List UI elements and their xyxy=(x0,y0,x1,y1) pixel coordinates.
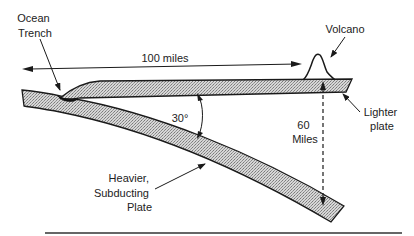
depth-label-line2: Miles xyxy=(292,133,318,145)
lighter-plate-pointer xyxy=(343,94,360,112)
heavier-plate-label: Heavier, Subducting Plate xyxy=(94,172,152,213)
depth-label: 60 Miles xyxy=(292,119,318,145)
ocean-trench-label: Ocean Trench xyxy=(17,12,52,39)
angle-label: 30° xyxy=(172,112,189,124)
lighter-plate xyxy=(60,79,352,99)
lighter-plate-label: Lighter plate xyxy=(364,106,401,132)
volcano-label: Volcano xyxy=(325,23,364,35)
distance-label: 100 miles xyxy=(141,52,189,64)
depth-label-line1: 60 xyxy=(297,119,309,131)
distance-arrow-left-head xyxy=(22,66,33,72)
heavier-plate-label-line3: Plate xyxy=(127,201,152,213)
angle-arc xyxy=(198,95,203,137)
lighter-plate-label-line2: plate xyxy=(370,120,394,132)
subduction-diagram: Ocean Trench 100 miles Volcano 30° 60 Mi… xyxy=(0,0,414,236)
volcano-pointer xyxy=(331,37,345,57)
ocean-trench-label-line2: Trench xyxy=(18,27,52,39)
trench-pointer xyxy=(40,39,60,90)
heavier-plate-label-line1: Heavier, xyxy=(109,172,149,184)
subducting-plate xyxy=(22,90,344,222)
distance-arrow xyxy=(30,64,297,69)
heavier-plate-label-line2: Subducting xyxy=(94,187,149,199)
volcano-shape xyxy=(303,54,335,80)
lighter-plate-label-line1: Lighter xyxy=(364,106,398,118)
heavier-plate-pointer xyxy=(155,164,205,189)
ocean-trench-label-line1: Ocean xyxy=(17,12,49,24)
distance-arrow-right-head xyxy=(291,61,302,67)
